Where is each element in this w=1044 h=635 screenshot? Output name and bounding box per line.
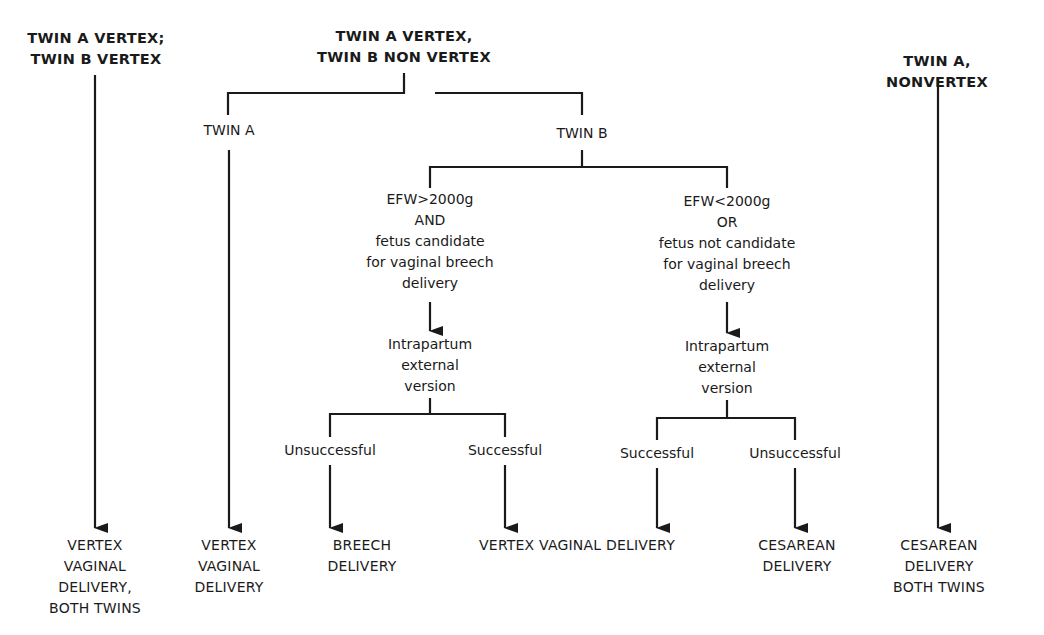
right-version-split-horizontal (657, 418, 795, 440)
outcome-vertex-vaginal-shared: VERTEX VAGINAL DELIVERY (479, 535, 675, 556)
heading-nonvertex: TWIN A, NONVERTEX (884, 51, 991, 93)
criteria-small-not-candidate: EFW<2000g OR fetus not candidate for vag… (659, 191, 796, 296)
branch-to-twin-b (435, 93, 582, 115)
label-twin-b: TWIN B (556, 123, 607, 144)
heading-vertex-nonvertex: TWIN A VERTEX, TWIN B NON VERTEX (317, 26, 491, 68)
label-twin-a: TWIN A (203, 120, 254, 141)
outcome-cesarean: CESAREAN DELIVERY (758, 535, 836, 577)
criteria-large-candidate: EFW>2000g AND fetus candidate for vagina… (366, 189, 493, 294)
procedure-version-left: Intrapartum external version (388, 334, 472, 397)
outcome-breech: BREECH DELIVERY (328, 535, 397, 577)
result-left-unsuccessful: Unsuccessful (284, 440, 376, 461)
left-version-split-horizontal (330, 414, 505, 437)
procedure-version-right: Intrapartum external version (685, 336, 769, 399)
result-right-successful: Successful (620, 443, 694, 464)
result-left-successful: Successful (468, 440, 542, 461)
result-right-unsuccessful: Unsuccessful (749, 443, 841, 464)
heading-vertex-vertex: TWIN A VERTEX; TWIN B VERTEX (27, 28, 164, 70)
outcome-vertex-both: VERTEX VAGINAL DELIVERY, BOTH TWINS (49, 535, 141, 619)
twin-b-split-horizontal (430, 167, 727, 188)
outcome-twin-a-vertex: VERTEX VAGINAL DELIVERY (195, 535, 264, 598)
branch-to-twin-a (228, 73, 404, 115)
outcome-cesarean-both: CESAREAN DELIVERY BOTH TWINS (893, 535, 985, 598)
